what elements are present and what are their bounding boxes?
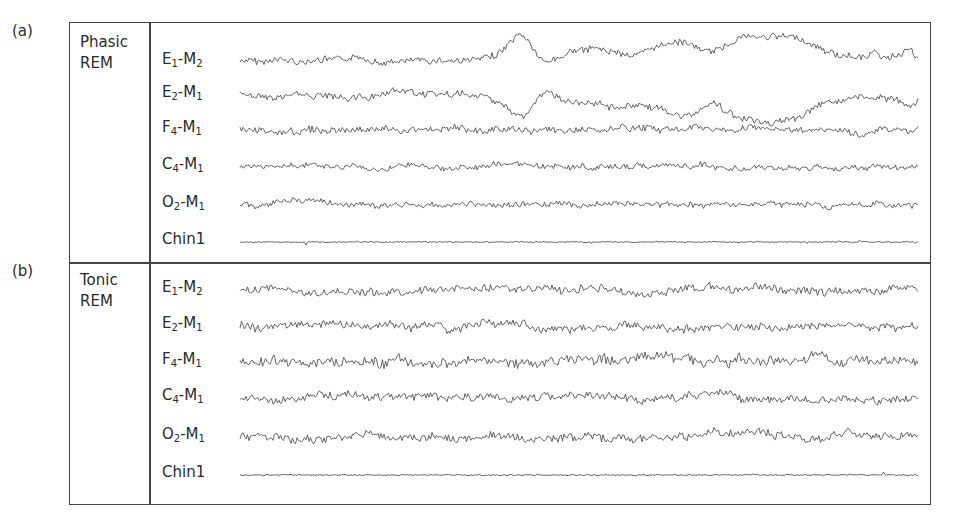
channel-label: Chin1 [162,463,205,481]
eeg-trace [240,376,920,420]
column-divider [149,22,151,505]
channel-label: E2-M1 [162,314,203,333]
channel-label: O2-M1 [162,193,205,212]
channel-label: O2-M1 [162,425,205,444]
channel-label: C4-M1 [162,386,204,405]
phasic-rem-label: Phasic REM [80,32,128,74]
channel-label: E2-M1 [162,83,203,102]
state-line-2: REM [80,291,118,312]
channel-label: C4-M1 [162,155,204,174]
state-line-2: REM [80,53,128,74]
panel-a-tag: (a) [12,22,33,40]
channel-label: F4-M1 [162,118,202,137]
channel-label: E1-M2 [162,50,203,69]
channel-label: E1-M2 [162,278,203,297]
eeg-trace [240,220,920,264]
state-line-1: Tonic [80,270,118,291]
eeg-trace [240,453,920,497]
state-line-1: Phasic [80,32,128,53]
channel-label: Chin1 [162,230,205,248]
panel-b-tag: (b) [12,262,33,280]
channel-label: F4-M1 [162,350,202,369]
tonic-rem-label: Tonic REM [80,270,118,312]
